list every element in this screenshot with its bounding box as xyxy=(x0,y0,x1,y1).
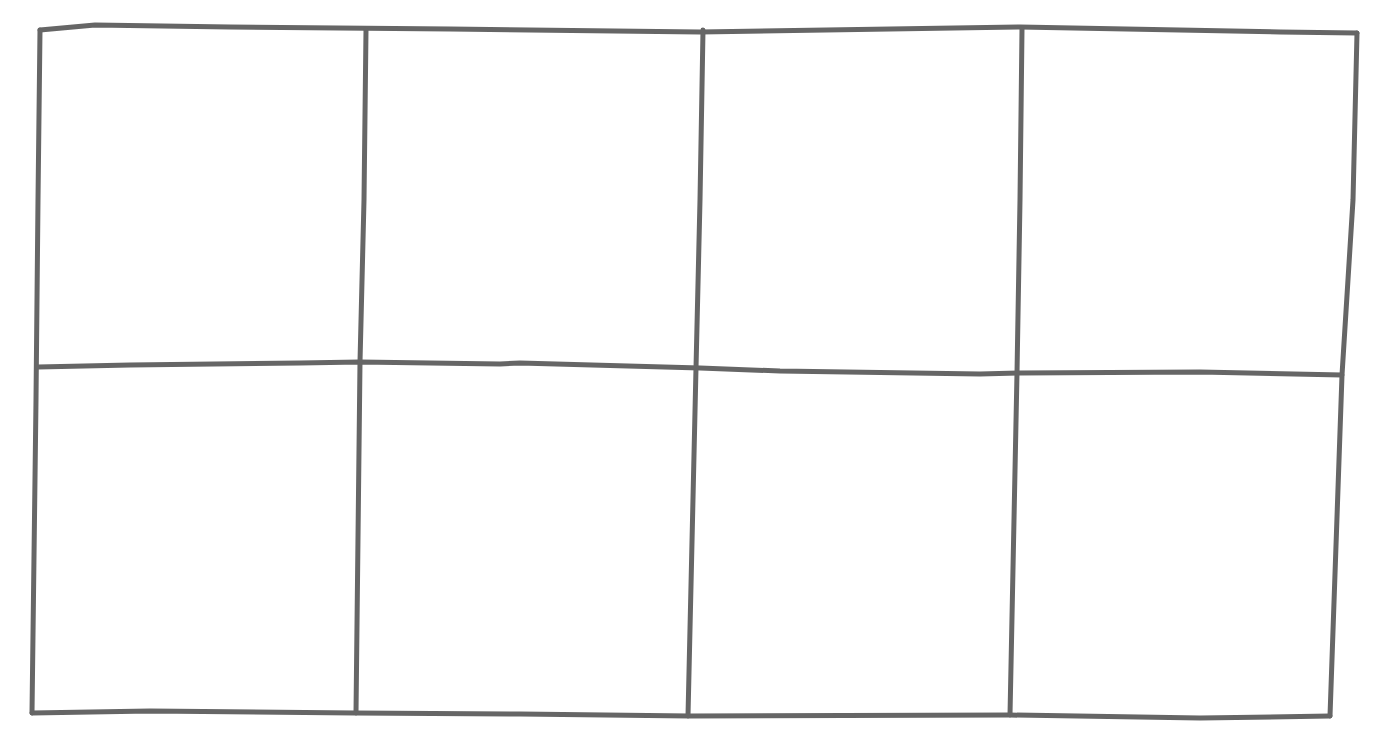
panel-r1-c2 xyxy=(368,34,696,362)
panel-r2-c2 xyxy=(368,370,696,711)
panel-r1-c4 xyxy=(1024,34,1346,362)
panel-r1-c1 xyxy=(44,34,360,362)
panel-r2-c1 xyxy=(44,370,360,711)
panel-r2-c4 xyxy=(1024,370,1346,711)
outer-border-bottom xyxy=(32,711,1330,718)
panel-r1-c3 xyxy=(704,34,1016,362)
outer-border-left xyxy=(32,30,40,713)
outer-border-top xyxy=(40,25,1357,33)
panel-r2-c3 xyxy=(704,370,1016,711)
